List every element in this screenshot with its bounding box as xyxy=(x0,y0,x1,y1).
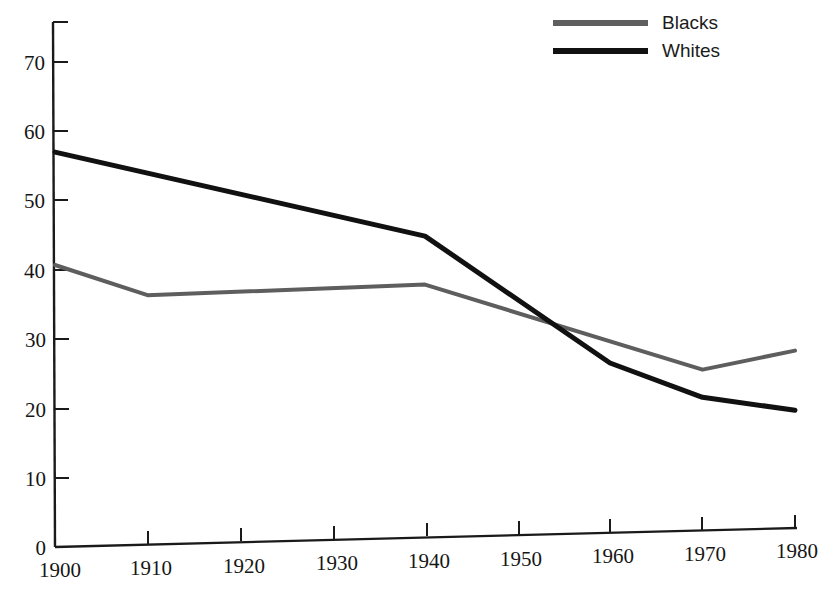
x-tick-label-1960: 1960 xyxy=(592,544,634,568)
series-line-blacks xyxy=(55,265,795,370)
chart-legend: Blacks Whites xyxy=(553,12,720,61)
x-tick-label-1910: 1910 xyxy=(130,556,172,580)
x-tick-label-1920: 1920 xyxy=(223,554,265,578)
x-tick-label-1950: 1950 xyxy=(500,547,542,571)
y-tick-label-60: 60 xyxy=(24,120,45,144)
y-tick-label-20: 20 xyxy=(25,398,46,422)
chart-canvas: 70 60 50 40 30 20 10 0 1900 1910 1920 19… xyxy=(0,0,833,597)
y-tick-label-10: 10 xyxy=(25,467,46,491)
x-tick-label-1980: 1980 xyxy=(776,539,818,563)
x-tick-label-1970: 1970 xyxy=(684,542,726,566)
y-tick-label-0: 0 xyxy=(36,536,47,560)
y-tick-label-70: 70 xyxy=(24,51,45,75)
x-tick-label-1900: 1900 xyxy=(39,558,81,582)
series-line-whites xyxy=(55,152,795,410)
legend-label-blacks: Blacks xyxy=(662,12,718,33)
y-axis-tick-labels: 70 60 50 40 30 20 10 0 xyxy=(24,51,46,560)
y-axis-line xyxy=(53,22,55,547)
line-chart: 70 60 50 40 30 20 10 0 1900 1910 1920 19… xyxy=(0,0,833,597)
x-tick-label-1940: 1940 xyxy=(408,549,450,573)
legend-label-whites: Whites xyxy=(662,40,720,61)
y-axis-ticks xyxy=(53,22,69,478)
y-tick-label-40: 40 xyxy=(24,259,45,283)
data-series-layer xyxy=(55,152,795,410)
x-tick-label-1930: 1930 xyxy=(316,551,358,575)
y-tick-label-50: 50 xyxy=(24,189,45,213)
y-tick-label-30: 30 xyxy=(25,328,46,352)
